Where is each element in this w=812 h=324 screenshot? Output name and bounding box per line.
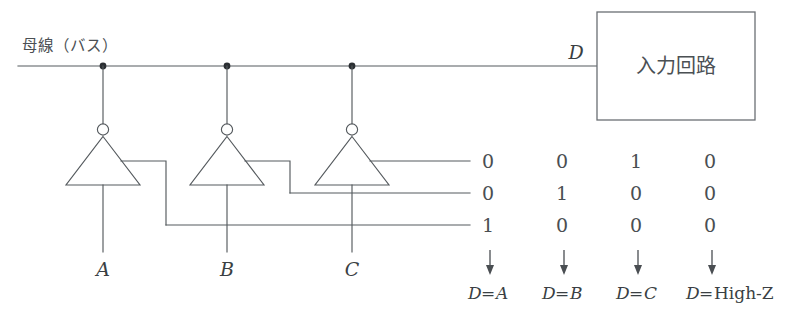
result-label-1: D = A bbox=[467, 283, 508, 303]
gate-a-input-label: A bbox=[94, 258, 110, 280]
diagram-canvas: 入力回路 母線（バス） D A B C 0 0 1 0 0 1 0 0 1 0 … bbox=[0, 0, 812, 324]
result-3-eq: = bbox=[629, 283, 643, 303]
result-4-rhs: High-Z bbox=[714, 283, 774, 303]
gate-a-inverter-bubble bbox=[97, 124, 108, 135]
result-3-lhs: D bbox=[615, 283, 630, 303]
result-4-lhs: D bbox=[685, 283, 700, 303]
enable-cell-r1c2: 0 bbox=[556, 150, 568, 172]
result-arrow-4 bbox=[708, 250, 716, 275]
enable-cell-r3c4: 0 bbox=[704, 214, 716, 236]
input-circuit-box-label: 入力回路 bbox=[636, 54, 716, 78]
result-2-rhs: B bbox=[569, 283, 583, 303]
enable-cell-r2c1: 0 bbox=[482, 182, 494, 204]
gate-b-input-label: B bbox=[219, 258, 234, 280]
gate-c-input-label: C bbox=[345, 258, 360, 280]
result-1-rhs: A bbox=[494, 283, 508, 303]
result-2-lhs: D bbox=[541, 283, 556, 303]
enable-cell-r1c1: 0 bbox=[482, 150, 494, 172]
tristate-bus-diagram: 入力回路 母線（バス） D A B C 0 0 1 0 0 1 0 0 1 0 … bbox=[0, 0, 812, 324]
bus-label: 母線（バス） bbox=[22, 37, 118, 55]
result-arrow-3 bbox=[634, 250, 642, 275]
gate-c-inverter-bubble bbox=[346, 124, 357, 135]
result-label-3: D = C bbox=[615, 283, 657, 303]
result-1-eq: = bbox=[481, 283, 495, 303]
enable-cell-r1c4: 0 bbox=[704, 150, 716, 172]
enable-cell-r2c3: 0 bbox=[630, 182, 642, 204]
enable-cell-r3c2: 0 bbox=[556, 214, 568, 236]
gate-b-inverter-bubble bbox=[221, 124, 232, 135]
enable-cell-r2c2: 1 bbox=[556, 182, 568, 204]
enable-cell-r2c4: 0 bbox=[704, 182, 716, 204]
result-arrow-1 bbox=[486, 250, 494, 275]
result-arrow-2 bbox=[560, 250, 568, 275]
result-3-rhs: C bbox=[644, 283, 657, 303]
enable-cell-r3c1: 1 bbox=[482, 214, 494, 236]
result-label-2: D = B bbox=[541, 283, 583, 303]
enable-cell-r1c3: 1 bbox=[630, 150, 642, 172]
result-1-lhs: D bbox=[467, 283, 482, 303]
result-2-eq: = bbox=[555, 283, 569, 303]
bus-output-label: D bbox=[567, 41, 583, 63]
result-label-4: D = High-Z bbox=[685, 283, 774, 303]
enable-cell-r3c3: 0 bbox=[630, 214, 642, 236]
result-4-eq: = bbox=[699, 283, 713, 303]
